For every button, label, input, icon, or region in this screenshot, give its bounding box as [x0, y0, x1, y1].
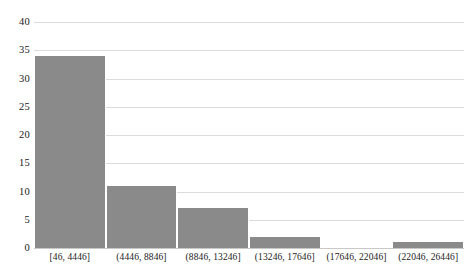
bar: [34, 56, 106, 248]
bar-slot: [392, 22, 464, 248]
bar-slot: [321, 22, 393, 248]
x-axis-tick-label: (8846, 13246]: [177, 252, 249, 263]
y-axis-tick-label: 10: [0, 187, 30, 197]
x-axis-tick-label: (13246, 17646]: [249, 252, 321, 263]
bar-slot: [177, 22, 249, 248]
bar: [177, 208, 249, 248]
y-axis-tick-label: 0: [0, 243, 30, 253]
y-axis-tick-label: 30: [0, 74, 30, 84]
x-axis-tick-label: (4446, 8846]: [106, 252, 178, 263]
plot-area: [34, 22, 464, 248]
x-axis: [46, 4446](4446, 8846](8846, 13246](1324…: [34, 252, 464, 263]
x-axis-tick-label: (17646, 22046]: [321, 252, 393, 263]
bar: [106, 186, 178, 248]
bar-series: [34, 22, 464, 248]
bar: [249, 237, 321, 248]
y-axis-tick-label: 5: [0, 215, 30, 225]
x-axis-tick-label: [46, 4446]: [34, 252, 106, 263]
y-axis-tick-label: 40: [0, 17, 30, 27]
histogram-chart: 0510152025303540 [46, 4446](4446, 8846](…: [0, 0, 476, 277]
y-axis-tick-label: 35: [0, 45, 30, 55]
bar: [392, 242, 464, 248]
bar-slot: [249, 22, 321, 248]
bar-slot: [34, 22, 106, 248]
gridline: [34, 248, 464, 249]
y-axis-tick-label: 15: [0, 158, 30, 168]
bar-slot: [106, 22, 178, 248]
y-axis-tick-label: 20: [0, 130, 30, 140]
y-axis: 0510152025303540: [0, 22, 30, 248]
y-axis-tick-label: 25: [0, 102, 30, 112]
x-axis-tick-label: (22046, 26446]: [392, 252, 464, 263]
